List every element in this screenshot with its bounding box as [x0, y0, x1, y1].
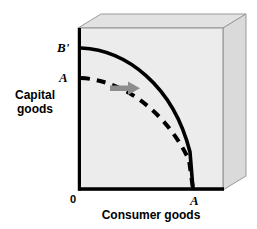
origin-label: 0 [70, 193, 76, 205]
y-axis-title-line1: Capital [4, 88, 66, 102]
a-horizontal-label: A [190, 193, 199, 209]
b-prime-label: B' [57, 40, 69, 56]
y-axis-title-line2: goods [4, 102, 66, 116]
box-side-face [223, 14, 246, 190]
box-top-face [78, 14, 246, 28]
ppf-figure: Capital goods Consumer goods B' A A 0 [0, 0, 257, 229]
a-vertical-label: A [59, 70, 68, 86]
x-axis-title: Consumer goods [78, 208, 224, 222]
y-axis-title: Capital goods [4, 88, 66, 116]
